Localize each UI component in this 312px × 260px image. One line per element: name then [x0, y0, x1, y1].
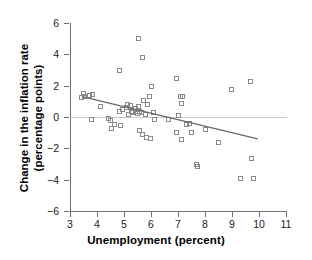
x-tick-4 — [97, 212, 98, 217]
x-axis-title: Unemployment (percent) — [0, 234, 312, 246]
y-tick--2 — [64, 148, 69, 149]
x-tick-label-10: 10 — [247, 219, 271, 230]
data-point — [89, 117, 94, 122]
data-point — [98, 104, 103, 109]
y-axis-title: Change in the inflation rate (percentage… — [17, 25, 45, 211]
data-point — [166, 117, 171, 122]
data-point — [174, 76, 179, 81]
data-point — [176, 113, 181, 118]
y-tick--4 — [64, 180, 69, 181]
data-point — [145, 102, 150, 107]
data-point — [187, 121, 192, 126]
data-point — [229, 87, 234, 92]
x-tick-label-7: 7 — [166, 219, 190, 230]
data-point — [143, 112, 148, 117]
y-tick--6 — [64, 211, 69, 212]
phillips-curve-chart: 6420−2−4−6 34567891011 Unemployment (per… — [0, 0, 312, 260]
y-axis-title-line1: Change in the inflation rate — [17, 25, 31, 211]
y-tick-0 — [64, 117, 69, 118]
data-point — [249, 156, 254, 161]
x-tick-label-5: 5 — [112, 219, 136, 230]
data-point — [136, 36, 141, 41]
x-tick-label-4: 4 — [85, 219, 109, 230]
y-tick-2 — [64, 86, 69, 87]
data-point — [118, 123, 123, 128]
data-point — [179, 101, 184, 106]
plot-area — [70, 23, 286, 211]
data-point — [251, 176, 256, 181]
x-tick-5 — [124, 212, 125, 217]
x-tick-7 — [178, 212, 179, 217]
data-point — [179, 137, 184, 142]
data-point — [112, 122, 117, 127]
x-tick-label-9: 9 — [220, 219, 244, 230]
data-point — [90, 92, 95, 97]
data-point — [136, 104, 141, 109]
x-tick-label-8: 8 — [193, 219, 217, 230]
data-point — [174, 130, 179, 135]
data-point — [148, 136, 153, 141]
data-point — [151, 110, 156, 115]
data-point — [117, 68, 122, 73]
x-tick-label-11: 11 — [274, 219, 298, 230]
x-tick-6 — [151, 212, 152, 217]
data-point — [189, 130, 194, 135]
data-point — [140, 55, 145, 60]
data-point — [82, 94, 87, 99]
x-tick-label-6: 6 — [139, 219, 163, 230]
data-point — [195, 164, 200, 169]
data-point — [147, 94, 152, 99]
data-point — [128, 103, 133, 108]
data-point — [248, 79, 253, 84]
x-tick-10 — [259, 212, 260, 217]
data-point — [203, 127, 208, 132]
x-tick-11 — [286, 212, 287, 217]
data-point — [149, 84, 154, 89]
y-axis-title-line2: (percentage points) — [31, 25, 45, 211]
y-tick-6 — [64, 23, 69, 24]
x-tick-8 — [205, 212, 206, 217]
x-tick-label-3: 3 — [58, 219, 82, 230]
x-tick-9 — [232, 212, 233, 217]
x-tick-3 — [70, 212, 71, 217]
data-point — [238, 176, 243, 181]
data-point — [152, 117, 157, 122]
data-point — [180, 94, 185, 99]
y-tick-4 — [64, 54, 69, 55]
data-point — [216, 140, 221, 145]
